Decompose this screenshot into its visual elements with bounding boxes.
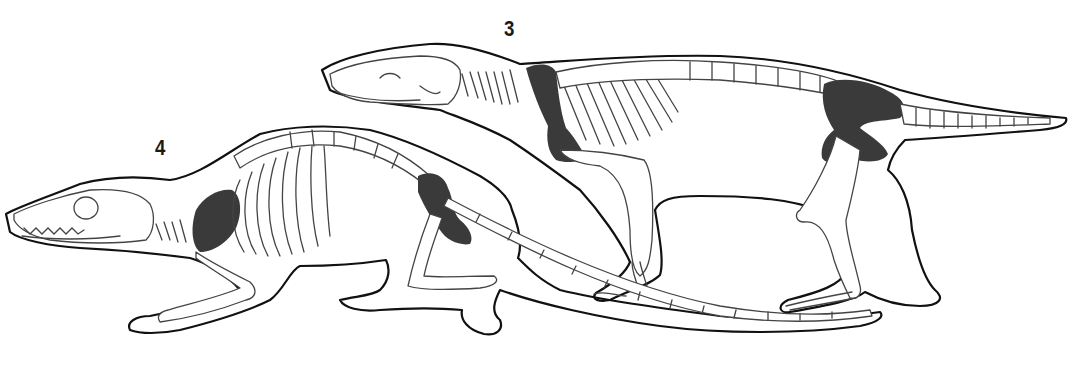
specimen-4-tail-vertebrae bbox=[476, 214, 832, 320]
specimen-4-orbit bbox=[74, 197, 98, 219]
specimen-4-neck-vertebrae bbox=[156, 220, 186, 242]
specimen-3-spine bbox=[556, 60, 840, 96]
specimen-3-neck-vertebrae bbox=[462, 70, 518, 104]
specimen-label-3: 3 bbox=[504, 16, 514, 42]
skeleton-comparison-figure bbox=[0, 0, 1074, 379]
specimen-3-skull bbox=[330, 56, 461, 105]
specimen-4-drawing bbox=[6, 127, 881, 335]
specimen-label-4: 4 bbox=[155, 135, 165, 161]
skeleton-drawing bbox=[0, 0, 1074, 379]
specimen-3-forelimb bbox=[560, 150, 653, 276]
specimen-3-ribs bbox=[560, 76, 678, 146]
specimen-3-hindlimb bbox=[797, 136, 861, 298]
